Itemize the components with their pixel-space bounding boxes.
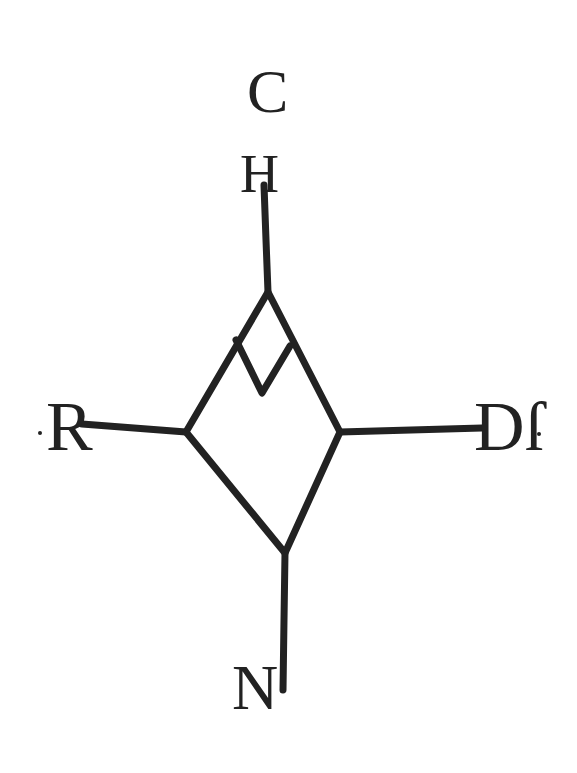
left-stem-line xyxy=(82,424,186,432)
label-top-h: H xyxy=(240,147,279,201)
bottom-stem-line xyxy=(283,553,285,690)
emblem-diagram xyxy=(0,0,577,773)
label-top-c: C xyxy=(247,60,288,122)
right-stem-line xyxy=(340,428,482,432)
diamond-shape xyxy=(186,292,340,553)
label-right-d: Dſ xyxy=(474,392,544,462)
inner-v-mark xyxy=(236,340,290,393)
dot-left xyxy=(38,431,42,435)
dot-right xyxy=(537,432,541,436)
label-bottom-n: N xyxy=(232,656,278,720)
label-left-r: R xyxy=(46,392,93,462)
